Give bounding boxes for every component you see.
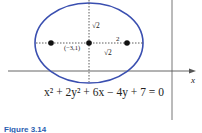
ellipse-equation: x² + 2y² + 6x − 4y + 7 = 0	[24, 86, 184, 98]
figure-caption: Figure 3.14	[4, 125, 46, 133]
x-axis-label: x	[190, 75, 195, 85]
x-axis-arrow-icon	[189, 69, 196, 74]
minor-axis-length-label: √2	[92, 21, 100, 30]
center-point	[86, 40, 92, 46]
focus-left-point	[48, 40, 54, 46]
center-label: (−3,1)	[64, 44, 80, 52]
semi-major-length-label: 2	[116, 35, 120, 43]
ellipse-diagram: x √2 (−3,1) 2 √2	[0, 0, 202, 133]
focal-distance-label: √2	[104, 48, 112, 57]
focus-right-point	[124, 40, 130, 46]
